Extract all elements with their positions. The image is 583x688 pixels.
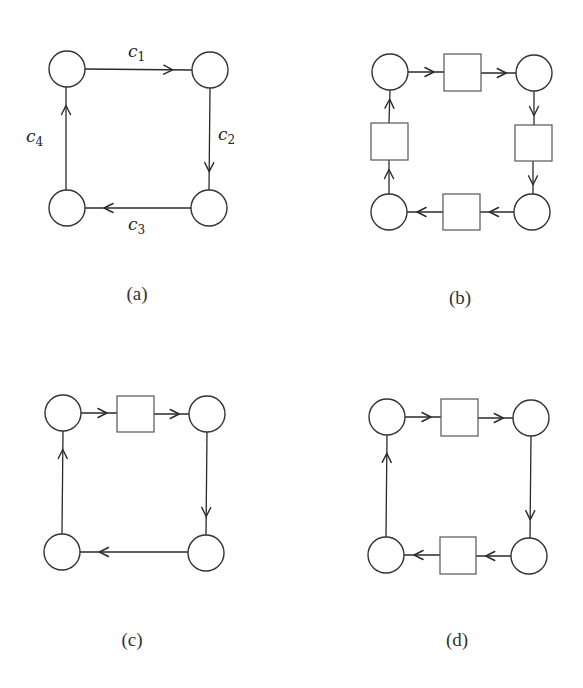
arc [476, 552, 511, 561]
transition-square [444, 54, 481, 91]
arc-line [386, 435, 387, 537]
panel-d: (d) [368, 399, 549, 651]
place-circle [188, 535, 224, 571]
transition-square [441, 399, 478, 436]
arc-label: c3 [128, 214, 145, 237]
place-circle [513, 400, 549, 436]
place-circle [45, 395, 81, 431]
arc [385, 90, 394, 123]
arc [85, 65, 192, 74]
arc-line [85, 69, 192, 70]
arc [85, 204, 191, 213]
arc [202, 432, 211, 535]
arc [154, 410, 189, 419]
arc [481, 69, 516, 78]
arc [405, 413, 441, 422]
panel-caption: (a) [126, 283, 147, 305]
petri-net-figure: c1c2c3c4(a)(b)(c)(d) [0, 0, 583, 688]
place-circle [369, 399, 405, 435]
arc [407, 208, 443, 217]
arc-label: c4 [26, 126, 44, 149]
place-circle [516, 55, 552, 91]
place-circle [189, 396, 225, 432]
place-circle [372, 54, 408, 90]
arc [205, 88, 214, 190]
arc-label: c1 [128, 41, 145, 64]
arc [385, 160, 394, 194]
place-circle [368, 537, 404, 573]
panel-caption: (b) [449, 287, 471, 309]
arc-line [209, 88, 210, 190]
arc-line [206, 432, 207, 535]
arc-line [389, 90, 390, 123]
place-circle [191, 190, 227, 226]
arc-label-subscript: 3 [138, 223, 146, 237]
arc [80, 548, 188, 557]
arc-line [530, 436, 531, 538]
arc-label-subscript: 2 [228, 133, 236, 147]
panel-b: (b) [371, 54, 552, 309]
transition-square [440, 537, 476, 574]
place-circle [44, 534, 80, 570]
arc [81, 409, 117, 418]
transition-square [117, 396, 154, 432]
arc-line [62, 431, 63, 534]
panel-a: c1c2c3c4(a) [26, 41, 235, 305]
arc-label-subscript: 4 [36, 135, 44, 149]
place-circle [49, 51, 85, 87]
panel-caption: (c) [121, 629, 142, 651]
arc [530, 91, 539, 125]
transition-square [443, 194, 480, 230]
transition-square [371, 123, 408, 160]
place-circle [192, 52, 228, 88]
arc [404, 551, 440, 560]
figure-panels: c1c2c3c4(a)(b)(c)(d) [26, 41, 552, 651]
place-circle [371, 194, 407, 230]
arc [62, 87, 71, 190]
place-circle [49, 190, 85, 226]
place-circle [514, 194, 550, 230]
arc [526, 436, 535, 538]
arc [480, 208, 514, 217]
arc-label: c2 [218, 124, 235, 147]
arc [408, 68, 444, 77]
place-circle [511, 538, 547, 574]
arc [529, 161, 538, 194]
transition-square [515, 125, 552, 161]
panel-caption: (d) [446, 629, 468, 651]
arc-label-subscript: 1 [138, 50, 146, 64]
arc [382, 435, 391, 537]
arc [58, 431, 67, 534]
panel-c: (c) [44, 395, 225, 651]
arc [478, 414, 513, 423]
